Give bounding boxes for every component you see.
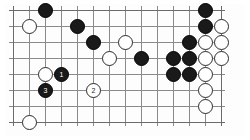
stone-white[interactable]: [198, 83, 213, 98]
stone-white[interactable]: [198, 51, 213, 66]
stone-label: [183, 36, 196, 49]
stone-black[interactable]: [166, 51, 181, 66]
stone-label: [39, 68, 52, 81]
stone-black[interactable]: [166, 67, 181, 82]
numbered-stone-black-1[interactable]: 1: [54, 67, 69, 82]
stone-black[interactable]: [134, 51, 149, 66]
stone-label: [215, 52, 228, 65]
stone-label: [199, 68, 212, 81]
stone-label: [199, 52, 212, 65]
stone-label: [215, 20, 228, 33]
stone-white[interactable]: [38, 67, 53, 82]
stone-white[interactable]: [22, 19, 37, 34]
stone-white[interactable]: [102, 51, 117, 66]
go-diagram-page: 132: [0, 0, 250, 140]
stone-label: [39, 4, 52, 17]
numbered-stone-black-3[interactable]: 3: [38, 83, 53, 98]
stone-white[interactable]: [198, 99, 213, 114]
stone-label: [23, 20, 36, 33]
stone-label: [199, 100, 212, 113]
stone-white[interactable]: [198, 67, 213, 82]
stone-label: [199, 36, 212, 49]
stone-black[interactable]: [182, 51, 197, 66]
stone-label: [103, 52, 116, 65]
go-board[interactable]: 132: [5, 4, 245, 136]
stone-white[interactable]: [198, 35, 213, 50]
stone-label: [71, 20, 84, 33]
stone-label: 2: [87, 84, 100, 97]
stone-white[interactable]: [214, 51, 229, 66]
stone-label: [87, 36, 100, 49]
stone-black[interactable]: [182, 35, 197, 50]
stone-label: [199, 4, 212, 17]
stone-white[interactable]: [118, 35, 133, 50]
stone-label: [167, 68, 180, 81]
stone-white[interactable]: [22, 115, 37, 130]
stone-black[interactable]: [70, 19, 85, 34]
stone-label: [183, 68, 196, 81]
stone-white[interactable]: [214, 35, 229, 50]
stone-label: [119, 36, 132, 49]
stone-label: 1: [55, 68, 68, 81]
stone-label: [183, 52, 196, 65]
numbered-stone-white-2[interactable]: 2: [86, 83, 101, 98]
stone-label: [199, 20, 212, 33]
stone-label: [199, 84, 212, 97]
stone-black[interactable]: [182, 67, 197, 82]
stone-label: [167, 52, 180, 65]
stone-black[interactable]: [198, 3, 213, 18]
stone-black[interactable]: [38, 3, 53, 18]
stone-black[interactable]: [86, 35, 101, 50]
stone-white[interactable]: [214, 19, 229, 34]
stone-label: [23, 116, 36, 129]
stone-label: [215, 36, 228, 49]
stone-black[interactable]: [198, 19, 213, 34]
stone-label: [135, 52, 148, 65]
stone-label: 3: [39, 84, 52, 97]
